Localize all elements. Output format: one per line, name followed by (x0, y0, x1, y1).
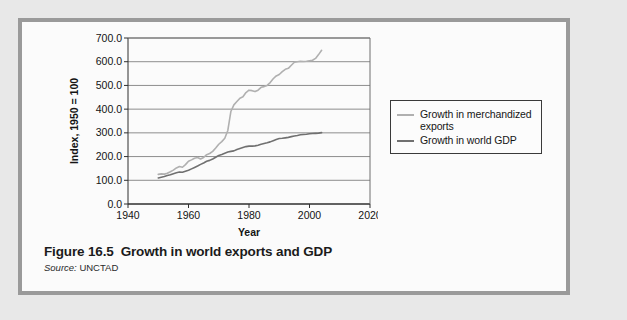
caption-title-line: Figure 16.5Growth in world exports and G… (44, 244, 474, 259)
source-value: UNCTAD (79, 262, 118, 273)
chart-plot: 0.0100.0200.0300.0400.0500.0600.0700.0 1… (68, 28, 378, 248)
y-tick-label: 400.0 (96, 103, 122, 115)
x-axis-title: Year (238, 226, 260, 238)
caption-source-line: Source: UNCTAD (44, 262, 474, 273)
y-tick-label: 0.0 (107, 198, 122, 210)
figure-number: Figure 16.5 (44, 244, 114, 259)
y-tick-label: 700.0 (96, 32, 122, 44)
chart-legend: Growth in merchandized exports Growth in… (390, 100, 542, 154)
x-axis-tick-labels: 19401960198020002020 (116, 209, 378, 221)
figure-title: Growth in world exports and GDP (121, 244, 332, 259)
legend-item: Growth in merchandized exports (397, 108, 533, 132)
y-tick-label: 500.0 (96, 79, 122, 91)
y-axis-tick-labels: 0.0100.0200.0300.0400.0500.0600.0700.0 (96, 32, 122, 210)
data-series-group (158, 50, 321, 178)
x-tick-label: 1980 (237, 209, 261, 221)
x-axis-tick-marks (128, 204, 370, 208)
y-axis-title: Index, 1950 = 100 (68, 78, 80, 164)
legend-label-gdp: Growth in world GDP (420, 134, 517, 146)
series-line (158, 133, 321, 178)
x-tick-label: 2000 (298, 209, 322, 221)
figure-panel: 0.0100.0200.0300.0400.0500.0600.0700.0 1… (18, 18, 570, 295)
x-tick-label: 1940 (116, 209, 140, 221)
x-tick-label: 2020 (358, 209, 378, 221)
legend-item: Growth in world GDP (397, 134, 533, 146)
legend-swatch-exports (397, 114, 414, 116)
source-label: Source: (44, 262, 77, 273)
legend-label-exports: Growth in merchandized exports (420, 108, 533, 132)
legend-swatch-gdp (397, 140, 414, 142)
y-tick-label: 600.0 (96, 55, 122, 67)
y-tick-label: 300.0 (96, 126, 122, 138)
x-tick-label: 1960 (177, 209, 201, 221)
series-line (158, 50, 321, 174)
y-tick-label: 200.0 (96, 150, 122, 162)
y-axis-tick-marks (124, 38, 128, 204)
y-tick-label: 100.0 (96, 174, 122, 186)
figure-caption: Figure 16.5Growth in world exports and G… (44, 244, 474, 273)
gridlines-group (128, 38, 370, 204)
line-chart-svg: 0.0100.0200.0300.0400.0500.0600.0700.0 1… (68, 28, 378, 248)
